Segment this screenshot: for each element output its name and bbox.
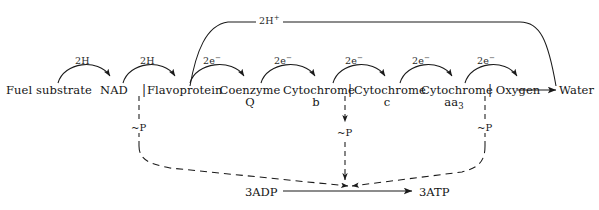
chain-node-flavoprotein-label: Flavoprotein — [147, 83, 222, 97]
dashed-path-site-1-to-pool — [139, 146, 348, 186]
proton-arc-path — [190, 22, 556, 86]
chain-node-fuel-substrate: Fuel substrate — [6, 84, 82, 96]
chain-node-nad-label: NAD — [100, 83, 128, 97]
arc-flavoprotein-to-coenzymeq — [190, 65, 244, 83]
transfer-label-7: 2e− — [477, 54, 495, 66]
phosphorylation-site-3: ~P — [476, 122, 493, 133]
site-1-label: P — [139, 122, 146, 133]
site-3-label: P — [485, 122, 492, 133]
chain-node-fuel-substrate-label: Fuel substrate — [6, 83, 92, 97]
arc-cytochromec-to-cytochromeaa3 — [400, 65, 452, 83]
arc-cytochromeaa3-to-oxygen — [465, 65, 517, 83]
chain-node-coenzyme-q-sublabel: Q — [219, 96, 281, 109]
chain-node-cytochrome-c: Cytochrome c — [354, 84, 420, 109]
chain-node-cytochrome-aa3-sublabel: aa3 — [421, 96, 487, 113]
transfer-label-5: 2e− — [345, 54, 363, 66]
transfer-label-2: 2H — [140, 54, 155, 66]
chain-node-water-label: Water — [559, 83, 594, 97]
separator-cytochrome-aa3-glyph: | — [488, 83, 492, 97]
transfer-arcs — [58, 65, 517, 83]
phosphorylation-site-2: ~P — [336, 127, 353, 138]
chain-node-flavoprotein: Flavoprotein — [147, 84, 219, 96]
transfer-label-1: 2H — [75, 54, 90, 66]
chain-node-cytochrome-aa3: Cytochrome aa3 — [421, 84, 487, 113]
transfer-label-4: 2e− — [274, 54, 292, 66]
arc-fuel-to-nad — [58, 65, 110, 83]
arc-nad-to-flavoprotein — [123, 65, 175, 83]
proton-arc-label: 2H+ — [256, 14, 283, 26]
arc-coenzymeq-to-cytochromeb — [261, 65, 315, 83]
chain-node-nad: NAD — [94, 84, 134, 96]
dashed-path-site-3-to-pool — [352, 146, 485, 186]
chain-node-cytochrome-b: Cytochrome b — [283, 84, 349, 109]
electron-transport-chain-diagram: Fuel substrate NAD | Flavoprotein Coenzy… — [0, 0, 599, 210]
chain-node-oxygen-label: Oxygen — [496, 83, 541, 97]
separator-cytochrome-b-glyph: | — [348, 83, 352, 97]
chain-node-cytochrome-b-sublabel: b — [283, 96, 349, 109]
transfer-label-6: 2e− — [412, 54, 430, 66]
chain-node-coenzyme-q: Coenzyme Q — [219, 84, 281, 109]
site-2-label: P — [345, 127, 352, 138]
energy-pool-substrate: 3ADP — [245, 185, 278, 199]
chain-node-cytochrome-c-sublabel: c — [354, 96, 420, 109]
chain-node-oxygen: Oxygen — [494, 84, 542, 96]
energy-pool-product: 3ATP — [419, 185, 449, 199]
transfer-label-3: 2e− — [203, 54, 221, 66]
chain-node-water: Water — [559, 84, 599, 96]
phosphorylation-site-1: ~P — [130, 122, 147, 133]
separator-flavoprotein-glyph: | — [142, 83, 146, 97]
arc-cytochromeb-to-cytochromec — [333, 65, 385, 83]
